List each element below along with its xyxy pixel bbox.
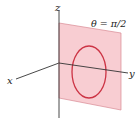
x-axis xyxy=(16,63,59,79)
diagram-canvas: z y x θ = π/2 xyxy=(0,0,139,121)
plane-label: θ = π/2 xyxy=(91,18,126,29)
half-plane-theta xyxy=(59,23,121,110)
z-axis-label: z xyxy=(54,2,61,13)
x-axis-label: x xyxy=(7,75,13,86)
y-axis-label: y xyxy=(128,68,135,79)
